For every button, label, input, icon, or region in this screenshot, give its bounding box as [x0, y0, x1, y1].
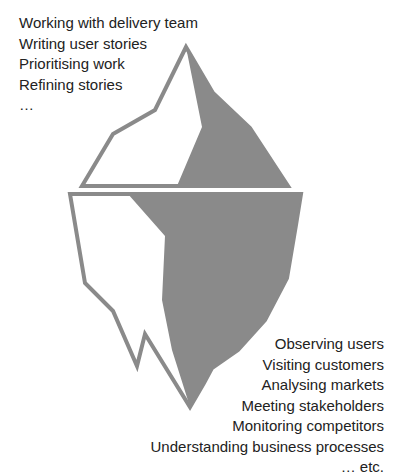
below-water-item: Understanding business processes — [151, 437, 384, 458]
above-water-item: Refining stories — [19, 75, 198, 96]
below-water-item: Monitoring competitors — [151, 416, 384, 437]
below-water-item: Meeting stakeholders — [151, 396, 384, 417]
above-water-activities-list: Working with delivery team Writing user … — [19, 13, 198, 116]
below-water-etc: … etc. — [151, 457, 384, 472]
below-water-item: Observing users — [151, 334, 384, 355]
above-water-ellipsis: … — [19, 95, 198, 116]
below-water-item: Visiting customers — [151, 355, 384, 376]
below-water-activities-list: Observing users Visiting customers Analy… — [151, 334, 384, 472]
above-water-item: Working with delivery team — [19, 13, 198, 34]
below-water-item: Analysing markets — [151, 375, 384, 396]
above-water-item: Prioritising work — [19, 54, 198, 75]
above-water-item: Writing user stories — [19, 34, 198, 55]
